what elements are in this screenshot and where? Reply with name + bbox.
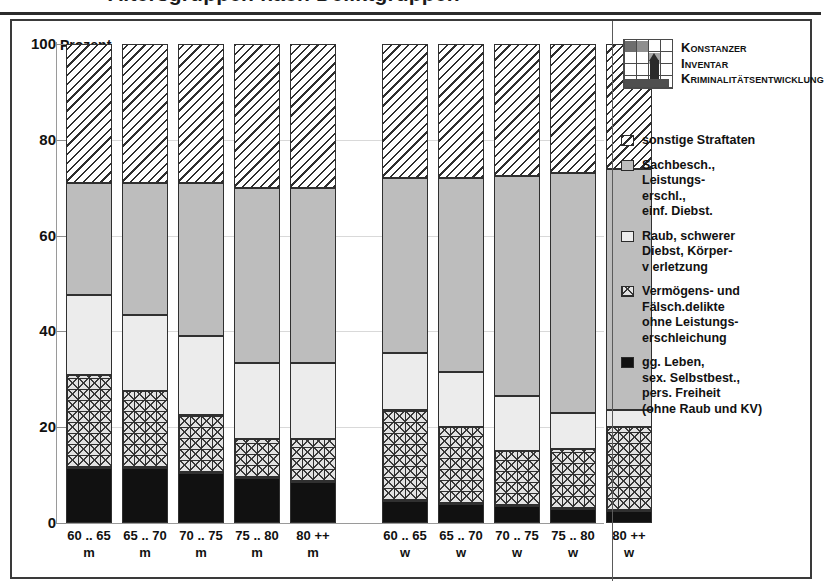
bars-layer [12,44,612,523]
legend-item-ggleben[interactable]: gg. Leben, sex. Selbstbest., pers. Freih… [621,355,813,417]
bar-segment-sachbesch [550,173,596,413]
bar-segment-sonstige [438,44,484,178]
bar-segment-raub [178,336,224,415]
legend-item-label: gg. Leben, sex. Selbstbest., pers. Freih… [642,355,762,417]
bar-7075-m[interactable] [178,44,224,523]
x-tick-label: 80 ++m [277,527,349,561]
bar-segment-ggleben [234,478,280,524]
bar-segment-sonstige [290,44,336,188]
x-tick-label-range: 60 .. 65 [67,528,110,543]
x-tick-label-range: 65 .. 70 [123,528,166,543]
top-divider-rule [0,12,821,15]
bar-segment-vermoegen [438,427,484,504]
solid-black-swatch [621,357,634,368]
y-tick-mark-0 [56,523,66,524]
bar-segment-sonstige [66,44,112,183]
bar-7580-m[interactable] [234,44,280,523]
bar-segment-raub [290,363,336,440]
legend-panel: Konstanzer Inventar Kriminalitätsentwick… [612,21,812,581]
bar-segment-sachbesch [494,176,540,396]
x-tick-label-range: 60 .. 65 [383,528,426,543]
bar-segment-sachbesch [178,183,224,336]
bar-segment-sonstige [178,44,224,183]
x-axis-line [56,523,604,524]
chart-title-text: Altersgruppen nach Deliktgruppen [108,0,460,6]
diagonal-hatch-swatch [621,135,634,146]
logo-line-2: Inventar [681,56,824,72]
x-tick-label-range: 75 .. 80 [235,528,278,543]
legend-item-label: Raub, schwerer Diebst, Körper- v erletzu… [642,229,735,276]
bar-segment-sachbesch [382,178,428,353]
bar-segment-sonstige [382,44,428,178]
x-tick-label-range: 75 .. 80 [551,528,594,543]
checkered-swatch [621,286,634,297]
bar-segment-sachbesch [66,183,112,296]
bar-segment-raub [234,363,280,440]
bar-segment-ggleben [382,501,428,523]
bar-80++-m[interactable] [290,44,336,523]
bar-segment-raub [438,372,484,427]
bar-segment-vermoegen [178,415,224,472]
bar-segment-vermoegen [122,391,168,468]
bar-segment-sachbesch [290,188,336,363]
bar-segment-ggleben [122,468,168,523]
chart-frame: Prozent 020406080100 60 .. 65m65 .. 70m7… [10,19,812,579]
legend-item-list: sonstige StraftatenSachbesch., Leistungs… [621,133,813,426]
logo-line-1: Konstanzer [681,40,824,56]
legend-item-label: Sachbesch., Leistungs- erschl., einf. Di… [642,158,715,220]
bar-segment-raub [66,295,112,374]
x-tick-label-range: 65 .. 70 [439,528,482,543]
bar-segment-raub [494,396,540,451]
legend-item-label: Vermögens- und Fälsch.delikte ohne Leist… [642,284,740,346]
bar-segment-ggleben [290,482,336,523]
bar-segment-vermoegen [382,410,428,501]
logo-line-3: Kriminalitätsentwicklung [681,71,824,87]
chart-title-cropped: Altersgruppen nach Deliktgruppen [0,0,821,12]
legend-item-sachbesch[interactable]: Sachbesch., Leistungs- erschl., einf. Di… [621,158,813,220]
bar-segment-vermoegen [550,449,596,509]
medium-gray-swatch [621,160,634,171]
x-tick-label-group: 60 .. 65m65 .. 70m70 .. 75m75 .. 80m80 +… [12,527,612,577]
bar-segment-sonstige [234,44,280,188]
bar-6570-w[interactable] [438,44,484,523]
bar-segment-vermoegen [234,439,280,477]
plot-area: Prozent 020406080100 60 .. 65m65 .. 70m7… [12,21,612,581]
bar-segment-ggleben [550,509,596,523]
konstanz-tower-icon [623,39,673,89]
x-tick-label-range: 70 .. 75 [179,528,222,543]
bar-segment-ggleben [66,468,112,523]
bar-segment-ggleben [178,473,224,523]
legend-item-sonstige[interactable]: sonstige Straftaten [621,133,813,149]
bar-segment-sonstige [494,44,540,176]
x-tick-label-sex: m [277,544,349,561]
bar-6065-w[interactable] [382,44,428,523]
bar-segment-sachbesch [122,183,168,315]
bar-segment-vermoegen [290,439,336,482]
legend-item-vermoegen[interactable]: Vermögens- und Fälsch.delikte ohne Leist… [621,284,813,346]
bar-segment-raub [550,413,596,449]
bar-6065-m[interactable] [66,44,112,523]
bar-segment-sonstige [122,44,168,183]
bar-segment-raub [382,353,428,410]
light-gray-swatch [621,231,634,242]
bar-6570-m[interactable] [122,44,168,523]
bar-segment-sonstige [550,44,596,173]
legend-item-raub[interactable]: Raub, schwerer Diebst, Körper- v erletzu… [621,229,813,276]
kik-logo: Konstanzer Inventar Kriminalitätsentwick… [623,39,824,89]
bar-segment-vermoegen [66,375,112,468]
bar-segment-raub [122,315,168,392]
bar-segment-ggleben [438,504,484,523]
bar-7075-w[interactable] [494,44,540,523]
legend-item-label: sonstige Straftaten [642,133,755,149]
bar-segment-vermoegen [494,451,540,506]
bar-segment-sachbesch [438,178,484,372]
bar-segment-sachbesch [234,188,280,363]
bar-7580-w[interactable] [550,44,596,523]
x-tick-label-range: 70 .. 75 [495,528,538,543]
bar-segment-ggleben [494,506,540,523]
x-tick-label-range: 80 ++ [296,528,329,543]
